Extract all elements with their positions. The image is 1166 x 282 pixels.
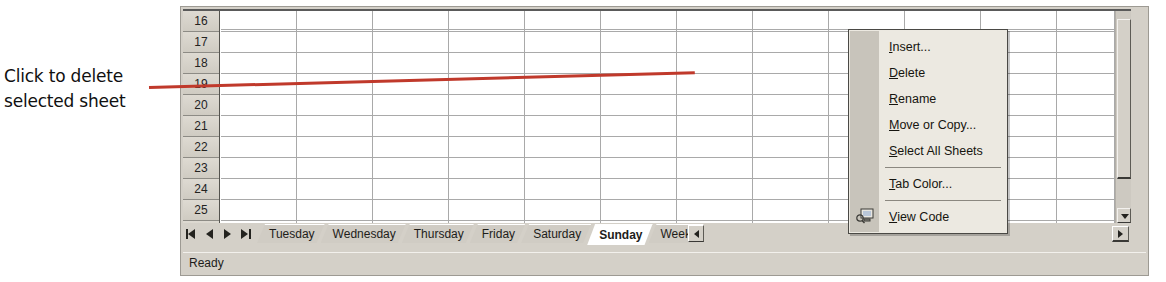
previous-sheet-icon [204,229,216,240]
next-sheet-button[interactable] [219,225,237,244]
menu-item-label: Rename [889,92,936,106]
first-sheet-icon [186,229,198,240]
menu-item-label: Insert... [889,40,931,54]
horizontal-scroll-right-button[interactable] [1112,226,1129,242]
menu-item-label: Tab Color... [889,177,952,191]
chevron-left-icon [694,230,699,238]
menu-item-tab-color[interactable]: Tab Color... [849,171,1007,197]
menu-item-rename[interactable]: Rename [849,86,1007,112]
view-code-icon [856,208,874,224]
row-header[interactable]: 17 [183,32,219,53]
sheet-tab-label: Thursday [414,227,464,241]
row-header[interactable]: 24 [183,179,219,200]
last-sheet-icon [240,229,252,240]
tab-horizontal-scroll[interactable] [688,225,722,244]
scroll-down-button[interactable] [1117,208,1131,223]
sheet-navigation-buttons [183,225,255,244]
menu-item-label: View Code [889,210,949,224]
first-sheet-button[interactable] [183,225,201,244]
status-bar: Ready [183,252,1146,272]
annotation-line-2: selected sheet [4,89,174,114]
menu-item-insert[interactable]: Insert... [849,34,1007,60]
spreadsheet-window: 1617181920212223242526 [180,6,1149,276]
sheet-tab-label: Tuesday [269,227,315,241]
sheet-tab-saturday[interactable]: Saturday [521,224,591,243]
sheet-tab-sunday[interactable]: Sunday [587,224,652,245]
sheet-tab-thursday[interactable]: Thursday [402,224,474,243]
menu-separator [885,200,1001,201]
chevron-right-icon [1118,230,1123,238]
row-header-column: 1617181920212223242526 [183,11,220,223]
row-header[interactable]: 22 [183,137,219,158]
sheet-tab-wednesday[interactable]: Wednesday [321,224,406,243]
menu-item-delete[interactable]: Delete [849,60,1007,86]
row-header[interactable]: 26 [183,221,219,223]
menu-item-move-or-copy[interactable]: Move or Copy... [849,112,1007,138]
row-header[interactable]: 16 [183,11,219,32]
last-sheet-button[interactable] [237,225,255,244]
tab-scroll-left-button[interactable] [688,225,704,242]
sheet-tab-label: Wednesday [333,227,396,241]
sheet-tabs: TuesdayWednesdayThursdayFridaySaturdaySu… [257,224,700,246]
menu-item-label: Select All Sheets [889,144,983,158]
sheet-tab-label: Friday [482,227,515,241]
sheet-tab-friday[interactable]: Friday [470,224,525,243]
sheet-tab-label: Sunday [599,228,642,242]
row-header[interactable]: 23 [183,158,219,179]
row-header[interactable]: 25 [183,200,219,221]
row-header[interactable]: 18 [183,53,219,74]
previous-sheet-button[interactable] [201,225,219,244]
row-header[interactable]: 20 [183,95,219,116]
vertical-scrollbar[interactable] [1115,11,1131,223]
menu-item-label: Delete [889,66,925,80]
menu-item-view-code[interactable]: View Code [849,204,1007,230]
sheet-tab-label: Saturday [533,227,581,241]
row-header[interactable]: 21 [183,116,219,137]
menu-item-select-all-sheets[interactable]: Select All Sheets [849,138,1007,164]
sheet-tab-context-menu[interactable]: Insert...DeleteRenameMove or Copy...Sele… [848,29,1008,234]
menu-item-label: Move or Copy... [889,118,976,132]
chevron-down-icon [1121,214,1129,219]
next-sheet-icon [222,229,234,240]
vertical-scrollbar-thumb[interactable] [1117,19,1131,179]
sheet-tab-tuesday[interactable]: Tuesday [257,224,325,243]
menu-separator [885,167,1001,168]
status-text: Ready [189,256,224,270]
